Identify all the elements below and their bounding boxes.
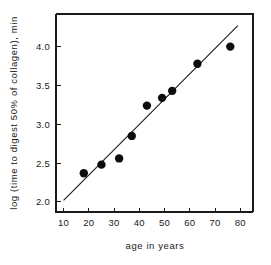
x-tick-label: 60 <box>184 217 195 228</box>
data-point <box>128 132 136 140</box>
y-tick-label: 2.0 <box>36 196 50 207</box>
data-point <box>168 87 176 95</box>
scatter-plot: 1020304050607080 2.02.53.03.54.0 age in … <box>0 0 271 265</box>
data-point <box>97 160 105 168</box>
y-axis-title: log (time to digest 50% of collagen), mi… <box>8 16 19 210</box>
y-tick-label: 2.5 <box>36 158 50 169</box>
x-tick-label: 80 <box>235 217 246 228</box>
data-point <box>158 94 166 102</box>
x-tick-label: 10 <box>58 217 69 228</box>
x-tick-label: 20 <box>83 217 94 228</box>
data-point <box>115 154 123 162</box>
x-tick-label: 50 <box>159 217 170 228</box>
figure-container: 1020304050607080 2.02.53.03.54.0 age in … <box>0 0 271 265</box>
data-point <box>80 169 88 177</box>
x-tick-label: 40 <box>134 217 145 228</box>
x-tick-label: 30 <box>109 217 120 228</box>
data-point <box>226 42 234 50</box>
data-point <box>143 101 151 109</box>
y-tick-label: 3.0 <box>36 119 50 130</box>
x-axis-title: age in years <box>126 240 185 251</box>
y-tick-label: 4.0 <box>36 41 50 52</box>
y-tick-label: 3.5 <box>36 80 50 91</box>
data-point <box>193 59 201 67</box>
x-tick-label: 70 <box>210 217 221 228</box>
